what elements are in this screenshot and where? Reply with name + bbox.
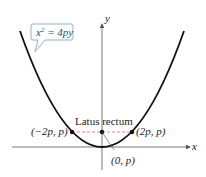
x-axis-label: x [191, 140, 197, 152]
diagram-canvas: x y Latus rectum (−2p, p) (2p, p) (0, p)… [0, 0, 206, 177]
left-endpoint-dot [70, 130, 74, 134]
parabola-diagram: x y Latus rectum (−2p, p) (2p, p) (0, p)… [0, 0, 206, 177]
left-endpoint-label: (−2p, p) [31, 125, 68, 138]
right-endpoint-dot [130, 130, 134, 134]
focus-label: (0, p) [111, 154, 135, 167]
latus-rectum-label: Latus rectum [75, 115, 133, 127]
equation-callout: x2 = 4py [31, 24, 73, 52]
y-axis-label: y [104, 12, 110, 24]
equation-label: x2 = 4py [35, 26, 73, 38]
right-endpoint-label: (2p, p) [136, 125, 166, 138]
